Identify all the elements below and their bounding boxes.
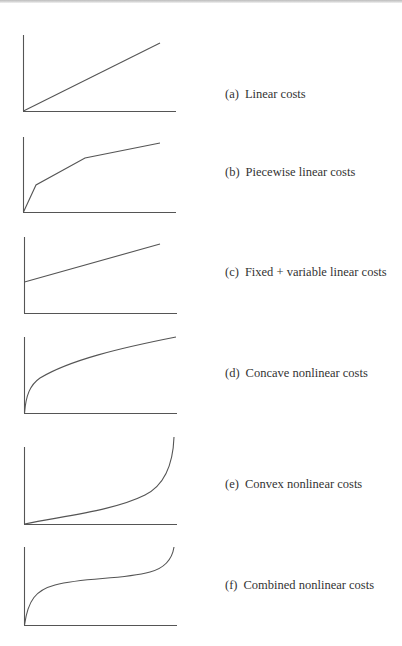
- caption-label: Combined nonlinear costs: [244, 578, 375, 592]
- caption-f: (f)Combined nonlinear costs: [225, 578, 374, 593]
- panel-combined-nonlinear-costs: (f)Combined nonlinear costs: [0, 0, 402, 646]
- chart-combined-nonlinear-costs: [0, 0, 200, 646]
- caption-tag: (f): [225, 578, 238, 592]
- cost-curve: [25, 547, 175, 625]
